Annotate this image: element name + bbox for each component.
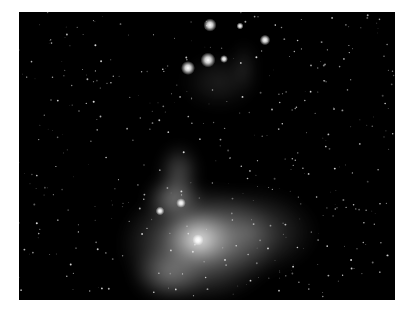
star-icon [236,22,243,29]
star-icon [156,207,165,216]
star-icon [176,198,186,208]
nebula-photo [19,12,395,300]
nebula-cloud [230,39,258,95]
star-icon [192,234,203,245]
nebula-cloud [157,142,201,202]
starfield-canvas [19,12,395,300]
star-icon [260,35,271,46]
star-icon [201,53,216,68]
star-icon [181,61,195,75]
star-icon [203,18,216,31]
star-icon [220,55,228,63]
